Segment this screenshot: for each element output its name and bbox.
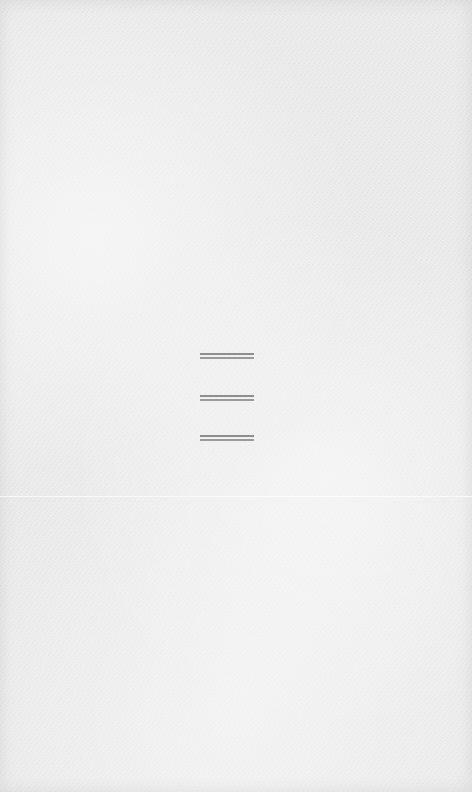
menu-bar-top [200,353,254,359]
blank-screen [0,0,472,792]
menu-bar-middle [200,395,254,401]
hamburger-menu-icon[interactable] [199,350,255,444]
divider [0,496,472,497]
menu-bar-bottom [200,435,254,441]
